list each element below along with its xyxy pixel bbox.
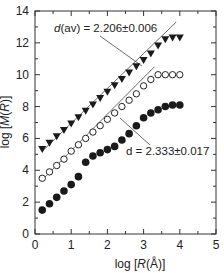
open-circle-marker bbox=[68, 148, 74, 154]
fit-line bbox=[42, 22, 176, 151]
filled-circle-marker bbox=[104, 146, 112, 154]
y-tick-label: 6 bbox=[22, 131, 29, 145]
y-tick-label: 12 bbox=[16, 36, 30, 50]
x-tick-label: 0 bbox=[32, 238, 39, 252]
triangle-marker bbox=[125, 70, 133, 77]
y-axis-label: log [M(R)] bbox=[0, 96, 12, 149]
open-circle-marker bbox=[82, 135, 88, 141]
open-circle-marker bbox=[111, 110, 117, 116]
data-points bbox=[38, 35, 184, 214]
open-circle-marker bbox=[46, 169, 52, 175]
x-tick-label: 2 bbox=[104, 238, 111, 252]
open-circle-marker bbox=[126, 97, 132, 103]
x-tick-label: 1 bbox=[68, 238, 75, 252]
triangle-marker bbox=[67, 121, 75, 128]
filled-circle-marker bbox=[111, 143, 119, 151]
filled-circle-marker bbox=[154, 106, 162, 114]
x-tick-label: 4 bbox=[176, 238, 183, 252]
filled-circle-marker bbox=[176, 101, 184, 109]
open-circle-marker bbox=[61, 156, 67, 162]
y-tick-label: 14 bbox=[16, 4, 30, 18]
open-circle-marker bbox=[148, 76, 154, 82]
filled-circle-marker bbox=[125, 130, 133, 138]
filled-circle-marker bbox=[38, 206, 46, 214]
triangle-marker bbox=[82, 108, 90, 115]
chart: 01234502468101214 d(av) = 2.206±0.006 d … bbox=[0, 0, 224, 273]
filled-circle-marker bbox=[53, 194, 61, 202]
filled-circle-marker bbox=[60, 187, 68, 195]
triangle-marker bbox=[111, 82, 119, 89]
tick-labels: 01234502468101214 bbox=[16, 4, 220, 252]
triangle-marker bbox=[176, 35, 184, 42]
open-circle-marker bbox=[133, 91, 139, 97]
open-circle-marker bbox=[90, 129, 96, 135]
open-circle-marker bbox=[75, 142, 81, 148]
filled-circle-marker bbox=[162, 103, 170, 111]
open-circle-marker bbox=[155, 72, 161, 78]
open-circle-marker bbox=[177, 72, 183, 78]
triangle-marker bbox=[38, 146, 46, 153]
open-circle-marker bbox=[162, 72, 168, 78]
filled-circle-marker bbox=[147, 109, 155, 117]
open-circle-marker bbox=[39, 175, 45, 181]
open-circle-marker bbox=[54, 162, 60, 168]
y-tick-label: 4 bbox=[22, 163, 29, 177]
filled-circle-marker bbox=[46, 200, 54, 208]
filled-circle-marker bbox=[89, 152, 97, 160]
triangle-marker bbox=[74, 114, 82, 121]
x-tick-label: 3 bbox=[140, 238, 147, 252]
triangle-marker bbox=[132, 63, 140, 70]
open-circle-marker bbox=[119, 103, 125, 109]
y-tick-label: 0 bbox=[22, 227, 29, 241]
y-tick-label: 10 bbox=[16, 68, 30, 82]
filled-circle-marker bbox=[169, 101, 177, 109]
filled-circle-marker bbox=[82, 159, 90, 167]
triangle-marker bbox=[53, 133, 61, 140]
open-circle-marker bbox=[140, 83, 146, 89]
triangle-marker bbox=[140, 57, 148, 64]
y-tick-label: 2 bbox=[22, 195, 29, 209]
triangle-marker bbox=[154, 43, 162, 50]
annotation-d-av: d(av) = 2.206±0.006 bbox=[54, 22, 157, 34]
annotation-leader-d-av bbox=[100, 36, 142, 66]
triangle-marker bbox=[161, 36, 169, 43]
triangle-marker bbox=[118, 76, 126, 83]
triangle-marker bbox=[147, 51, 155, 58]
open-circle-marker bbox=[97, 122, 103, 128]
filled-circle-marker bbox=[140, 114, 148, 122]
open-circle-marker bbox=[104, 116, 110, 122]
filled-circle-marker bbox=[118, 136, 126, 144]
filled-circle-marker bbox=[67, 181, 75, 189]
filled-circle-marker bbox=[75, 173, 83, 181]
x-tick-label: 5 bbox=[213, 238, 220, 252]
triangle-marker bbox=[169, 35, 177, 42]
y-tick-label: 8 bbox=[22, 100, 29, 114]
filled-circle-marker bbox=[96, 149, 104, 157]
triangle-marker bbox=[45, 140, 53, 147]
triangle-marker bbox=[103, 89, 111, 96]
x-axis-label: log [R(Å)] bbox=[115, 256, 166, 271]
filled-circle-marker bbox=[133, 122, 141, 130]
annotation-d: d = 2.333±0.017 bbox=[126, 145, 209, 157]
open-circle-marker bbox=[169, 72, 175, 78]
